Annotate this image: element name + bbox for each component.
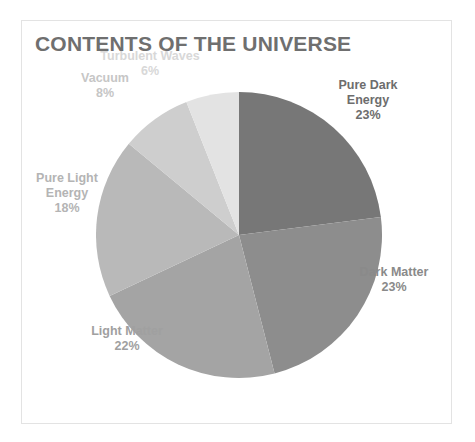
pie-chart: Pure Dark Energy 23% Dark Matter 23% Lig…: [22, 21, 453, 425]
pie-label-text-2: Energy: [347, 93, 389, 107]
pie-label-text: Dark Matter: [360, 265, 429, 279]
pie-label-percent: 22%: [72, 339, 182, 354]
pie-label-percent: 23%: [342, 280, 446, 295]
pie-label-percent: 18%: [16, 201, 118, 216]
pie-label-turbulent-waves: Turbulent Waves 6%: [87, 49, 213, 79]
pie-label-light-matter: Light Matter 22%: [72, 324, 182, 354]
pie-label-dark-matter: Dark Matter 23%: [342, 265, 446, 295]
pie-label-text: Light Matter: [91, 324, 163, 338]
pie-label-percent: 6%: [87, 64, 213, 79]
pie-label-pure-light-energy: Pure Light Energy 18%: [16, 171, 118, 216]
chart-card: CONTENTS OF THE UNIVERSE Pure Dark Energ…: [21, 20, 452, 424]
pie-label-text: Pure Dark: [338, 78, 397, 92]
pie-label-pure-dark-energy: Pure Dark Energy 23%: [318, 78, 418, 123]
pie-label-percent: 8%: [59, 86, 151, 101]
pie-label-text: Turbulent Waves: [100, 49, 199, 63]
pie-label-percent: 23%: [318, 108, 418, 123]
pie-label-text-2: Energy: [46, 186, 88, 200]
pie-label-text: Pure Light: [36, 171, 98, 185]
